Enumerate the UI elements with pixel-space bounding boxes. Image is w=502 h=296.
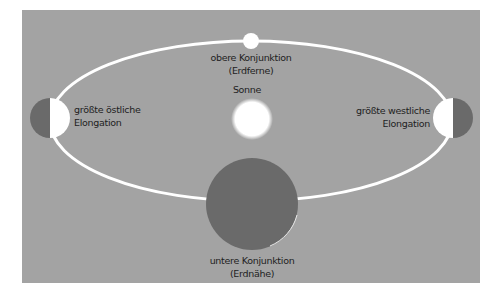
label-eastern-line2: Elongation <box>74 116 140 129</box>
label-inferior-conjunction-line1: untere Konjunktion <box>196 254 308 267</box>
planet-eastern-elongation-icon <box>30 98 70 138</box>
label-western-line1: größte westliche <box>330 104 430 117</box>
planet-superior-conjunction-icon <box>243 33 259 49</box>
orbit-diagram <box>0 0 502 296</box>
label-inferior-conjunction-line2: (Erdnähe) <box>196 267 308 280</box>
label-western-line2: Elongation <box>330 117 430 130</box>
label-superior-conjunction-line2: (Erdferne) <box>201 64 301 77</box>
label-eastern-line1: größte östliche <box>74 103 140 116</box>
label-sun: Sonne <box>222 83 272 96</box>
label-superior-conjunction: obere Konjunktion (Erdferne) <box>201 51 301 77</box>
planet-western-elongation-icon <box>433 98 473 138</box>
label-greatest-eastern-elongation: größte östliche Elongation <box>74 103 140 129</box>
label-greatest-western-elongation: größte westliche Elongation <box>330 104 430 130</box>
label-superior-conjunction-line1: obere Konjunktion <box>201 51 301 64</box>
label-inferior-conjunction: untere Konjunktion (Erdnähe) <box>196 254 308 280</box>
sun-icon <box>231 98 273 140</box>
